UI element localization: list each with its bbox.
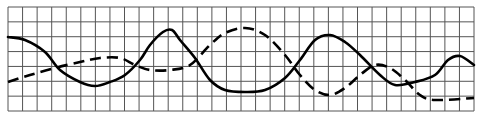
- grid: [8, 7, 474, 111]
- curves-figure: [0, 0, 480, 119]
